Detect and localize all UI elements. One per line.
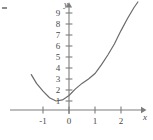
y-tick-label-2: 2 bbox=[53, 86, 63, 95]
y-tick-label-1: 1 bbox=[53, 97, 63, 106]
y-tick-label-4: 4 bbox=[53, 64, 63, 73]
x-axis-label: x bbox=[143, 113, 147, 122]
y-tick-label-3: 3 bbox=[53, 75, 63, 84]
x-tick-label-0: 0 bbox=[62, 117, 76, 126]
y-tick-label-8: 8 bbox=[53, 20, 63, 29]
plot-canvas bbox=[0, 0, 153, 140]
x-tick-label-2: 2 bbox=[114, 117, 128, 126]
x-axis bbox=[10, 107, 147, 114]
x-tick-label-1: 1 bbox=[88, 117, 102, 126]
parabola-curve bbox=[31, 2, 138, 101]
y-tick-label-9: 9 bbox=[53, 9, 63, 18]
x-tick-label--1: -1 bbox=[36, 117, 50, 126]
y-tick-label-5: 5 bbox=[53, 53, 63, 62]
y-tick-label-7: 7 bbox=[53, 31, 63, 40]
y-axis-label: y bbox=[64, 0, 68, 9]
graph-figure: -1 0 1 2 1 2 3 4 5 6 7 8 9 y x bbox=[0, 0, 153, 140]
y-tick-label-6: 6 bbox=[53, 42, 63, 51]
